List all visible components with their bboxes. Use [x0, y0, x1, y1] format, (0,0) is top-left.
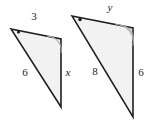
left-triangle-right-label: x — [65, 66, 71, 78]
right-triangle: y 8 6 — [72, 1, 144, 117]
right-triangle-top-label: y — [107, 1, 113, 13]
right-triangle-right-label: 6 — [138, 66, 144, 78]
left-triangle: 3 6 x — [11, 10, 71, 107]
left-vertex-dot-icon — [17, 30, 20, 33]
triangles-diagram: 3 6 x y 8 6 — [0, 0, 156, 129]
right-vertex-dot-icon — [78, 18, 82, 22]
geometry-figure: 3 6 x y 8 6 — [0, 0, 156, 129]
right-triangle-left-label: 8 — [92, 65, 98, 77]
left-triangle-top-label: 3 — [31, 10, 37, 22]
left-triangle-left-label: 6 — [22, 66, 28, 78]
